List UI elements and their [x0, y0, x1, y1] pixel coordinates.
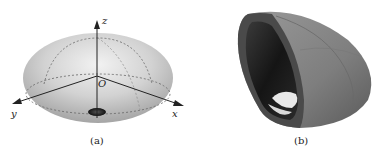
- x-arrowhead-icon: [173, 100, 184, 106]
- panel-a-ellipsoid: z x y O (a): [0, 0, 200, 154]
- shell-diagram: [200, 0, 387, 154]
- panel-b-shell: (b): [200, 0, 387, 154]
- caption-a: (a): [90, 136, 104, 146]
- y-axis-label: y: [11, 109, 17, 119]
- ellipsoid-diagram: [0, 0, 200, 154]
- origin-label: O: [98, 79, 106, 89]
- z-axis-label: z: [102, 16, 107, 26]
- caption-b: (b): [294, 136, 308, 146]
- y-arrowhead-icon: [12, 98, 22, 104]
- z-arrowhead-icon: [94, 20, 100, 29]
- x-axis-label: x: [172, 109, 178, 119]
